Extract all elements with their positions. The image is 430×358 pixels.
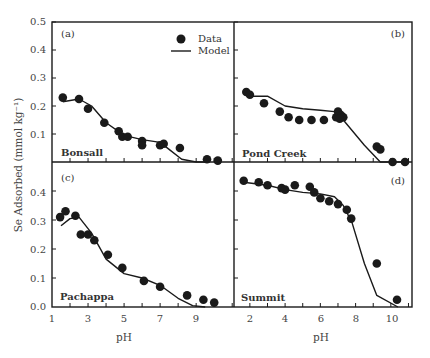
xtick-left-2: 5 [121,313,127,324]
data-point [263,181,272,190]
data-point [138,141,147,150]
xaxis-title-left: pH [116,331,132,343]
data-point [334,200,343,209]
xtick-left-4: 9 [193,313,199,324]
ytick-top-3: 0.2 [30,101,46,112]
ytick-top-2: 0.3 [30,72,46,83]
data-point [123,133,132,142]
data-point [254,178,263,187]
data-point [71,211,80,220]
data-point [310,188,319,197]
panel-summit [239,177,401,308]
data-point [199,296,208,305]
xtick-right-3: 8 [353,313,359,324]
data-point [388,158,397,167]
xtick-left-3: 7 [157,313,163,324]
ytick-bottom-0: 0.4 [30,187,46,198]
data-point [276,107,285,116]
data-point [320,116,329,125]
panel-tag-c: (c) [61,172,75,183]
data-point [156,282,165,291]
data-point [183,291,192,300]
data-point [140,277,149,286]
data-point [373,259,382,268]
site-label-pond-creek: Pond Creek [242,148,308,159]
ytick-top-0: 0.5 [30,16,46,27]
ytick-bottom-2: 0.2 [30,244,46,255]
data-point [118,264,127,273]
data-point [325,197,334,206]
data-point [59,93,68,102]
data-point [75,95,84,104]
data-point [335,114,344,123]
data-point [84,105,93,114]
data-point [260,99,269,108]
data-point [291,181,300,190]
panel-tag-d: (d) [391,175,405,186]
xtick-right-4: 10 [386,313,399,324]
data-point [284,113,293,122]
data-point [281,185,290,194]
xtick-left-0: 1 [49,313,55,324]
data-point [376,145,385,154]
xtick-left-1: 3 [85,313,91,324]
data-point [295,116,304,125]
site-label-summit: Summit [241,292,285,303]
site-label-bonsall: Bonsall [61,147,103,158]
xtick-right-2: 6 [318,313,324,324]
axis-ticks [52,22,408,307]
data-point [210,298,219,307]
panel-tag-a: (a) [61,28,75,39]
data-point [100,119,109,128]
data-point [84,230,93,239]
legend-data-marker-icon [177,35,186,44]
data-point [343,206,352,215]
data-point [246,91,255,100]
data-series [56,88,410,307]
legend-data-label: Data [198,33,222,44]
data-point [347,214,356,223]
legend: Data Model [171,33,230,56]
data-point [307,116,316,125]
legend-model-label: Model [198,45,230,56]
outer-frame [52,22,412,307]
data-point [401,158,410,167]
plot-frame [52,22,412,307]
ytick-top-4: 0.1 [30,129,46,140]
ytick-bottom-3: 0.1 [30,273,46,284]
panel-tag-b: (b) [391,28,405,39]
data-point [203,155,212,164]
xaxis-title-right: pH [313,331,329,343]
data-point [61,207,70,216]
data-point [214,156,223,165]
data-point [393,296,402,305]
data-point [159,140,168,149]
data-point [90,236,99,245]
ytick-bottom-1: 0.3 [30,216,46,227]
data-point [104,251,113,260]
data-point [176,144,185,153]
xtick-right-0: 2 [247,313,253,324]
ytick-top-1: 0.4 [30,44,46,55]
site-label-pachappa: Pachappa [60,291,115,302]
xtick-right-1: 4 [282,313,288,324]
ytick-bottom-4: 0.0 [30,301,46,312]
chart-figure: 0.5 0.4 0.3 0.2 0.1 0.4 0.3 0.2 0.1 0.0 … [0,0,430,358]
data-point [316,194,325,203]
yaxis-title: Se Adsorbed (mmol kg⁻¹) [12,98,24,233]
data-point [239,177,248,186]
